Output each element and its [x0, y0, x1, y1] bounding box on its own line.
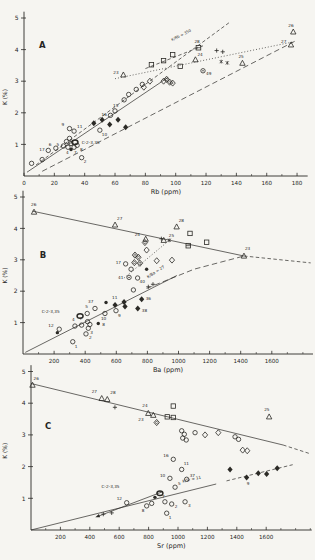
- annotation-label: K/Rb = 350: [170, 28, 192, 43]
- point-label: 26: [31, 202, 37, 207]
- series-plus-mark: [215, 48, 225, 53]
- y-tick-label: 5: [14, 193, 18, 200]
- point-label: 11: [77, 124, 83, 129]
- y-tick-label: 3: [22, 431, 26, 438]
- point-label: 6: [49, 142, 52, 147]
- point-label: 27: [281, 39, 287, 44]
- point-label: 12: [48, 323, 54, 328]
- point-label: 24: [197, 52, 203, 57]
- x-axis-title: Rb (ppm): [151, 188, 181, 196]
- panel-letter: C: [45, 421, 51, 431]
- x-tick-label: 800: [142, 358, 153, 364]
- x-tick-label: 180: [292, 180, 303, 186]
- axes: 02040608010012014016018012345: [15, 12, 308, 186]
- annotation-label: C-2-3,35: [102, 484, 120, 489]
- point-label: 24: [142, 403, 148, 408]
- series-hatched-diamond: [132, 239, 148, 266]
- point-label: 4: [72, 317, 75, 322]
- y-tick-label: 3: [15, 77, 19, 84]
- y-tick-label: 4: [14, 225, 18, 232]
- panel-letter: B: [40, 250, 46, 260]
- point-label: 23: [245, 246, 251, 251]
- x-tick-label: 1000: [171, 534, 186, 540]
- series-filled-diamond: 9: [227, 465, 279, 486]
- x-axis-title: Ba (ppm): [153, 366, 183, 374]
- panel-b: 200400600800100012001400160012345Ba (ppm…: [1, 191, 313, 374]
- x-tick-label: 1200: [200, 534, 215, 540]
- x-tick-label: 100: [170, 180, 181, 186]
- x-tick-label: 1200: [202, 358, 217, 364]
- point-label: 25: [264, 407, 270, 412]
- point-label: 9: [247, 481, 250, 486]
- x-tick-label: 600: [111, 358, 122, 364]
- x-tick-label: 1600: [259, 534, 274, 540]
- point-label: 9: [62, 122, 65, 127]
- panel-a: 02040608010012014016018012345Rb (ppm)K (…: [1, 12, 308, 196]
- point-label: 38: [142, 308, 148, 313]
- series-cross-mark: [220, 60, 229, 65]
- y-tick-label: 2: [22, 463, 26, 470]
- annotation-label: C-2-3,35: [42, 309, 60, 314]
- series-hatched-diamond: [154, 419, 159, 425]
- x-tick-label: 400: [80, 358, 91, 364]
- x-tick-label: 160: [261, 180, 272, 186]
- x-axis-title: Sr (ppm): [157, 542, 186, 550]
- point-label: 5: [56, 142, 59, 147]
- series-filled-circle: [69, 148, 72, 151]
- point-label: 24: [135, 232, 141, 237]
- y-tick-label: 4: [22, 399, 26, 406]
- series-open-diamond: [202, 430, 249, 454]
- panel-letter: A: [39, 40, 46, 50]
- y-tick-label: 2: [14, 287, 18, 294]
- point-label: 28: [194, 39, 200, 44]
- x-tick-label: 1000: [171, 358, 186, 364]
- x-tick-label: 600: [114, 534, 125, 540]
- series-filled-circle: 8: [56, 268, 149, 335]
- series-plus-mark: [146, 237, 163, 289]
- point-label: 40: [140, 279, 146, 284]
- y-axis-title: K (%): [1, 89, 8, 105]
- y-tick-label: 1: [22, 495, 26, 502]
- series-open-diamond: [144, 247, 175, 264]
- series-open-circle: 17654782911101615: [29, 82, 144, 165]
- reference-lines: [31, 384, 309, 531]
- point-label: 41: [118, 275, 124, 280]
- x-tick-label: 800: [143, 534, 154, 540]
- annotation-label: C-2-3,35: [82, 140, 100, 145]
- point-label: 16: [163, 453, 169, 458]
- point-label: 12: [117, 496, 123, 501]
- y-tick-label: 5: [15, 14, 19, 21]
- point-label: 10: [160, 473, 166, 478]
- series-filled-circle: [153, 496, 156, 499]
- y-tick-label: 3: [14, 256, 18, 263]
- point-label: 28: [179, 218, 185, 223]
- point-label: 28: [110, 390, 116, 395]
- point-label: 11: [112, 295, 118, 300]
- series-open-square: [188, 231, 209, 244]
- x-tick-label: 140: [231, 180, 242, 186]
- x-tick-label: 1400: [234, 358, 249, 364]
- x-tick-label: 40: [81, 180, 89, 186]
- annotation-label: K/Sr = 11: [182, 474, 202, 483]
- point-label: 8: [102, 322, 105, 327]
- point-label: 23: [138, 417, 144, 422]
- y-tick-label: 4: [15, 46, 19, 53]
- series-open-diamond: [141, 78, 166, 90]
- point-label: 1: [75, 344, 78, 349]
- series-open-triangle: 262728242325: [30, 376, 272, 422]
- point-label: 5: [178, 481, 181, 486]
- x-tick-label: 200: [55, 534, 66, 540]
- point-label: 1: [169, 515, 172, 520]
- point-label: 25: [169, 233, 175, 238]
- x-tick-label: 1600: [265, 358, 280, 364]
- y-tick-label: 1: [15, 141, 19, 148]
- point-label: 4: [66, 150, 69, 155]
- x-tick-label: 20: [51, 180, 59, 186]
- point-label: 37: [88, 299, 94, 304]
- point-label: 27: [117, 216, 123, 221]
- point-label: 7: [74, 150, 77, 155]
- point-label: 3: [188, 503, 191, 508]
- x-tick-label: 80: [142, 180, 150, 186]
- x-tick-label: 400: [84, 534, 95, 540]
- reference-lines: [25, 211, 310, 352]
